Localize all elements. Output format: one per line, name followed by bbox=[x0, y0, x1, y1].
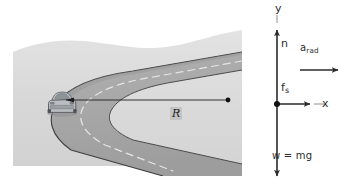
x-axis-label: x bbox=[322, 97, 329, 110]
curve-center-dot bbox=[226, 98, 231, 103]
radius-label: R bbox=[170, 107, 182, 120]
free-body-diagram-svg bbox=[246, 0, 346, 192]
car-wheel-left bbox=[48, 109, 51, 113]
car-bumper bbox=[50, 105, 73, 108]
y-axis-label: y bbox=[275, 2, 282, 15]
friction-force-subscript: s bbox=[285, 86, 289, 95]
road-scene-svg bbox=[13, 16, 242, 176]
radial-acceleration-label: arad bbox=[300, 42, 319, 55]
car-wheel-right bbox=[73, 109, 76, 113]
car-taillight-right bbox=[70, 102, 75, 104]
banked-road-curve-illustration: R bbox=[13, 16, 242, 176]
radial-acceleration-subscript: rad bbox=[306, 46, 319, 55]
weight-force-label: w = mg bbox=[272, 150, 312, 161]
physics-figure: R y x n bbox=[0, 0, 346, 192]
car-taillight-left bbox=[50, 102, 55, 104]
friction-force-label: fs bbox=[281, 81, 289, 95]
free-body-diagram: y x n fs arad w = mg bbox=[246, 0, 346, 192]
normal-force-label: n bbox=[281, 37, 288, 50]
origin-point bbox=[274, 101, 280, 107]
